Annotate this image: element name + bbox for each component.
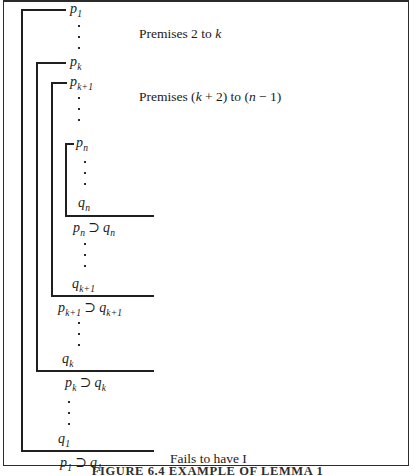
- proof-bracket-level-1-vertical: [21, 9, 23, 452]
- proof-bracket-level-3-bottom-rule: [51, 295, 154, 297]
- closing-term-level-4: qn: [78, 196, 90, 213]
- proof-bracket-level-1-top-rule: [21, 9, 66, 11]
- premise-term-level-3: pk+1: [70, 75, 93, 92]
- vertical-ellipsis-level-4-inner: [82, 161, 88, 185]
- premise-sub-level-1: 1: [77, 9, 82, 19]
- conclusion-consequent-sub-level-4: n: [110, 228, 115, 238]
- conclusion-level-2: pk⊃qk: [65, 376, 106, 393]
- premise-sub-level-4: n: [83, 143, 88, 153]
- figure-caption-text: FIGURE 6.4 EXAMPLE OF LEMMA 1: [0, 466, 415, 476]
- premise-sub-level-2: k: [77, 62, 81, 72]
- proof-bracket-level-3-vertical: [51, 82, 53, 297]
- vertical-ellipsis-level-4-after: [82, 243, 88, 267]
- proof-bracket-level-4-vertical: [65, 143, 67, 217]
- closing-term-level-1: q1: [58, 432, 70, 449]
- figure-container: p1 pk pk+1 pn qn qk+1 qk q1 pn⊃qn pk+1⊃q…: [0, 0, 415, 476]
- conclusion-consequent-sub-level-3: k+1: [106, 308, 122, 318]
- horseshoe-icon-level-2: ⊃: [77, 375, 95, 390]
- conclusion-consequent-sub-level-2: k: [102, 383, 106, 393]
- proof-bracket-level-2-vertical: [36, 62, 38, 372]
- annotation-premises-inner: Premises (k + 2) to (n − 1): [139, 89, 281, 105]
- closing-sub-level-4: n: [85, 203, 90, 213]
- vertical-ellipsis-level-3-after: [76, 322, 82, 346]
- proof-bracket-level-1-bottom-rule: [21, 450, 154, 452]
- conclusion-level-3: pk+1⊃qk+1: [58, 301, 122, 318]
- proof-bracket-level-3-top-rule: [51, 82, 67, 84]
- premise-sub-level-3: k+1: [77, 82, 93, 92]
- vertical-ellipsis-level-2-after: [66, 401, 72, 425]
- premise-term-level-4: pn: [76, 136, 88, 153]
- closing-sub-level-1: 1: [65, 439, 70, 449]
- annotation-fails-to-have-i: Fails to have I: [170, 451, 247, 467]
- conclusion-consequent-base-level-2: q: [95, 375, 102, 390]
- annotation-premises-outer-var: k: [215, 26, 221, 41]
- proof-bracket-level-2-top-rule: [36, 62, 66, 64]
- horseshoe-icon-level-3: ⊃: [81, 300, 99, 315]
- proof-bracket-level-4-bottom-rule: [65, 215, 154, 217]
- vertical-ellipsis-level-1-top: [76, 25, 82, 49]
- closing-term-level-3: qk+1: [72, 277, 95, 294]
- closing-sub-level-2: k: [69, 359, 73, 369]
- horseshoe-icon-level-4: ⊃: [85, 220, 103, 235]
- vertical-ellipsis-level-3-top: [76, 97, 82, 121]
- conclusion-level-4: pn⊃qn: [73, 221, 115, 238]
- figure-caption: FIGURE 6.4 EXAMPLE OF LEMMA 1: [0, 466, 415, 476]
- proof-bracket-level-4-top-rule: [65, 143, 74, 145]
- figure-frame-border: [3, 0, 409, 466]
- conclusion-antecedent-sub-level-2: k: [72, 383, 76, 393]
- proof-bracket-level-2-bottom-rule: [36, 370, 154, 372]
- conclusion-antecedent-sub-level-3: k+1: [65, 308, 81, 318]
- closing-term-level-2: qk: [62, 352, 74, 369]
- premise-term-level-1: p1: [70, 2, 82, 19]
- annotation-premises-outer: Premises 2 to k: [139, 26, 221, 42]
- premise-term-level-2: pk: [70, 55, 82, 72]
- closing-sub-level-3: k+1: [79, 284, 95, 294]
